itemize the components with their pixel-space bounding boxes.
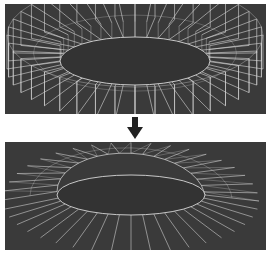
wireframe-panel-after: Transformed wireframe (saddle-shaped cab… — [5, 142, 266, 250]
wireframe-before-graphic — [5, 4, 266, 114]
arrow-down-icon — [127, 117, 143, 139]
wireframe-panel-before: Initial wireframe (flat ring with vertic… — [5, 4, 266, 114]
wireframe-after-graphic — [5, 142, 266, 250]
